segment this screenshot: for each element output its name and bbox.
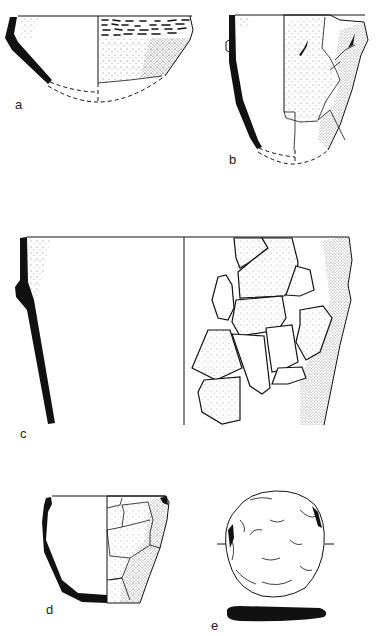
label-b: b — [229, 152, 236, 167]
label-a: a — [15, 97, 23, 112]
label-d: d — [46, 602, 53, 617]
object-e: e — [211, 491, 334, 633]
label-e: e — [211, 618, 218, 633]
vessel-a: a — [5, 16, 193, 112]
label-c: c — [20, 426, 27, 441]
pottery-plate: a b — [0, 0, 378, 636]
vessel-b: b — [226, 15, 368, 167]
vessel-c: c — [15, 237, 352, 441]
vessel-d: d — [42, 496, 169, 617]
